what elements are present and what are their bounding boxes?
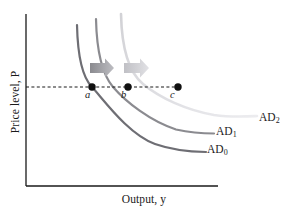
curve-label-ad0: AD0 bbox=[207, 143, 228, 155]
curve-label-ad0-subscript: 0 bbox=[224, 148, 228, 157]
curve-label-ad2-subscript: 2 bbox=[276, 116, 280, 125]
curve-label-ad1: AD1 bbox=[216, 125, 237, 137]
curve-label-ad0-text: AD bbox=[207, 143, 224, 155]
point-marker-c bbox=[174, 83, 181, 90]
y-axis-label: Price level, P bbox=[9, 54, 21, 150]
curve-ad1 bbox=[96, 19, 214, 134]
curve-label-ad1-subscript: 1 bbox=[233, 130, 237, 139]
point-label-c: c bbox=[170, 89, 175, 100]
curve-ad0 bbox=[77, 25, 206, 152]
x-axis-label: Output, y bbox=[96, 193, 192, 205]
point-label-a: a bbox=[85, 89, 90, 100]
curve-label-ad1-text: AD bbox=[216, 125, 233, 137]
chart-canvas bbox=[0, 0, 289, 215]
point-label-b: b bbox=[121, 89, 126, 100]
aggregate-demand-chart: Price level, P Output, y AD0 AD1 AD2 a b… bbox=[0, 0, 289, 215]
curve-label-ad2: AD2 bbox=[259, 111, 280, 123]
curve-label-ad2-text: AD bbox=[259, 111, 276, 123]
